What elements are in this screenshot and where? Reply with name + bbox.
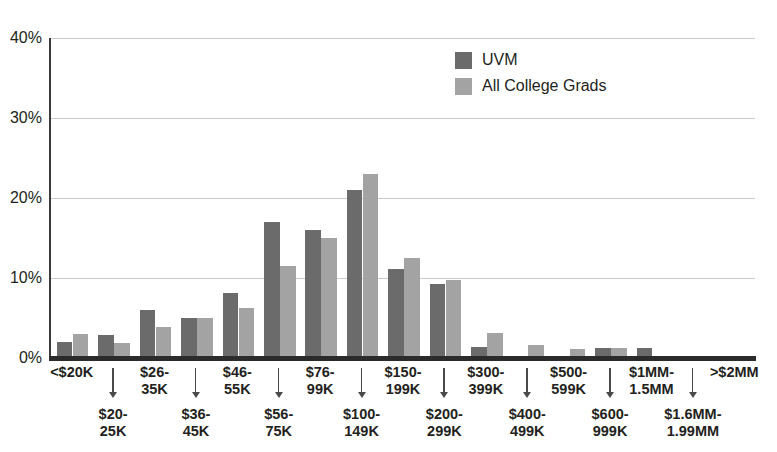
x-axis-tick-label: $200- 299K [406, 406, 482, 440]
bar-all-college-grads [239, 308, 255, 358]
x-axis-labels: <$20K$20- 25K$26- 35K$36- 45K$46- 55K$56… [0, 362, 777, 452]
bar-uvm [140, 310, 156, 358]
bar-uvm [305, 230, 321, 358]
bar-all-college-grads [156, 327, 172, 358]
y-axis-tick-label: 20% [10, 190, 42, 206]
legend-swatch-icon-all-college-grads [455, 78, 472, 95]
bar-group [672, 38, 713, 358]
bar-group [175, 38, 216, 358]
x-axis-tick-label: $76- 99K [282, 364, 358, 398]
x-axis-tick-label: $36- 45K [158, 406, 234, 440]
bar-group [714, 38, 755, 358]
bar-group [258, 38, 299, 358]
bar-group [631, 38, 672, 358]
bar-chart: 0%10%20%30%40% UVM All College Grads <$2… [0, 0, 777, 452]
bar-all-college-grads [280, 266, 296, 358]
x-axis-tick-label: $26- 35K [117, 364, 193, 398]
y-axis-tick-label: 10% [10, 270, 42, 286]
bar-all-college-grads [73, 334, 89, 358]
x-axis-tick-label: $600- 999K [572, 406, 648, 440]
bar-uvm [98, 335, 114, 358]
bar-group [382, 38, 423, 358]
x-axis-tick-label: $56- 75K [241, 406, 317, 440]
x-axis-tick-label: $1.6MM- 1.99MM [655, 406, 731, 440]
legend-label-all-college-grads: All College Grads [482, 78, 607, 94]
bar-uvm [181, 318, 197, 358]
bar-uvm [388, 269, 404, 358]
bar-all-college-grads [197, 318, 213, 358]
bar-uvm [264, 222, 280, 358]
x-axis-tick-label: $1MM- 1.5MM [613, 364, 689, 398]
y-axis-tick-label: 40% [10, 30, 42, 46]
bar-all-college-grads [404, 258, 420, 358]
legend-swatch-icon-uvm [455, 52, 472, 69]
bars-layer [51, 38, 755, 358]
x-axis-baseline [49, 356, 756, 361]
x-axis-tick-label: <$20K [34, 364, 110, 381]
x-axis-tick-label: $300- 399K [448, 364, 524, 398]
bar-uvm [347, 190, 363, 358]
bar-group [51, 38, 92, 358]
chart-legend: UVM All College Grads [455, 47, 607, 99]
bar-group [217, 38, 258, 358]
legend-item-uvm: UVM [455, 47, 607, 73]
bar-group [92, 38, 133, 358]
x-axis-tick-label: $150- 199K [365, 364, 441, 398]
x-axis-tick-label: $500- 599K [531, 364, 607, 398]
bar-all-college-grads [321, 238, 337, 358]
bar-group [299, 38, 340, 358]
legend-label-uvm: UVM [482, 52, 518, 68]
legend-item-all-college-grads: All College Grads [455, 73, 607, 99]
bar-all-college-grads [487, 333, 503, 358]
x-axis-tick-label: $400- 499K [489, 406, 565, 440]
x-axis-tick-label: >$2MM [696, 364, 772, 381]
bar-all-college-grads [446, 280, 462, 358]
bar-uvm [430, 284, 446, 358]
bar-group [341, 38, 382, 358]
bar-group [134, 38, 175, 358]
bar-all-college-grads [363, 174, 379, 358]
x-axis-tick-label: $100- 149K [324, 406, 400, 440]
x-axis-tick-label: $20- 25K [75, 406, 151, 440]
y-axis-tick-label: 30% [10, 110, 42, 126]
x-axis-tick-label: $46- 55K [199, 364, 275, 398]
bar-uvm [223, 293, 239, 358]
